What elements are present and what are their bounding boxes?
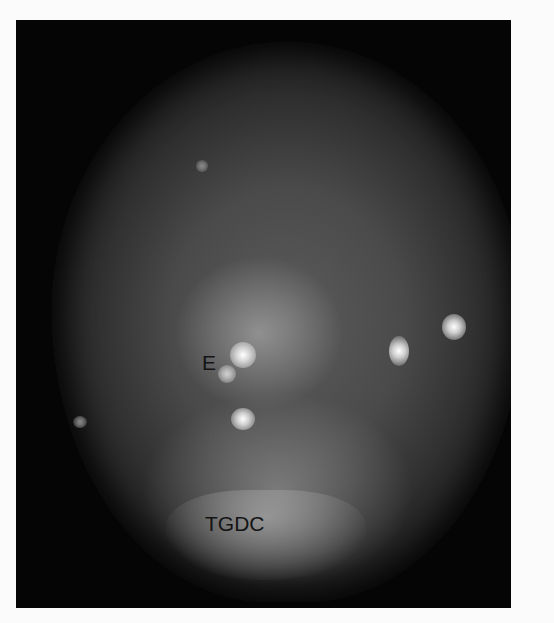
bright-spot [442,314,466,340]
bright-lower-region [166,490,366,580]
label-tgdc: TGDC [205,513,265,534]
label-e: E [202,352,216,373]
bright-spot [230,342,256,368]
image-frame: E TGDC [16,20,511,608]
bright-spot [389,336,409,366]
bright-spot [73,416,87,428]
bright-spot [231,408,255,430]
bright-spot [196,160,208,172]
bright-spot [218,365,236,383]
